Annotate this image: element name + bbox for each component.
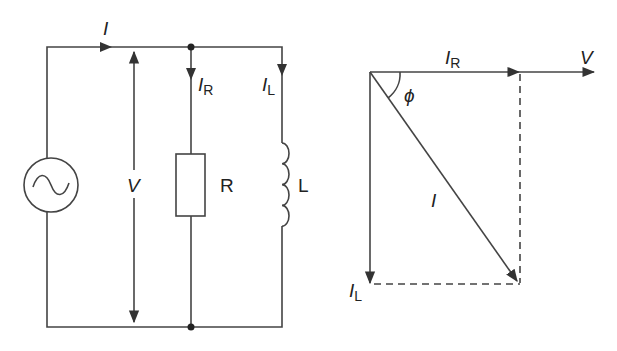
ir-label: IR xyxy=(198,74,213,98)
phi-arc xyxy=(388,72,400,98)
sine-wave-icon xyxy=(33,175,69,194)
phasor-v-label: V xyxy=(580,47,595,68)
resistor-icon xyxy=(176,154,205,216)
total-current-label: I xyxy=(103,18,109,39)
circuit xyxy=(24,42,289,331)
current-arrow-icon xyxy=(100,42,112,52)
phi-label: ϕ xyxy=(404,85,415,106)
resistor-label: R xyxy=(220,175,234,196)
junction-dot xyxy=(188,324,195,331)
il-arrow-icon xyxy=(277,64,287,76)
i-phasor xyxy=(370,72,517,281)
phasor-il-label: IL xyxy=(349,280,362,304)
voltage-label: V xyxy=(127,175,142,196)
parallel-rl-diagram: I V IR IL R L IR V ϕ I IL xyxy=(0,0,617,351)
ir-arrow-icon xyxy=(186,68,196,80)
junction-dot xyxy=(188,44,195,51)
inductor-label: L xyxy=(298,175,309,196)
left-wire-lower xyxy=(47,212,282,327)
inductor-icon xyxy=(282,143,289,226)
phasor-ir-label: IR xyxy=(445,47,460,71)
left-wire xyxy=(47,47,282,158)
phasor-i-label: I xyxy=(431,190,437,211)
il-label: IL xyxy=(262,74,275,98)
